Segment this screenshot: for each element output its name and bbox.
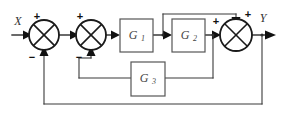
summing-junction-1[interactable] [29,20,59,50]
sum1-sign-plus: + [34,10,40,22]
block-g3-subscript: 3 [151,77,156,86]
block-g2-subscript: 2 [193,34,197,43]
arrowhead-g1-input [111,31,120,40]
block-g1-subscript: 1 [141,34,145,43]
sum2-sign-minus: − [76,51,82,63]
input-label-x: X [13,14,22,28]
sum2-sign-plus: + [77,10,83,22]
block-g2-label: G [181,28,190,42]
sum3-sign-plus-top: + [245,8,251,20]
junction-dot-g1-output-tap [162,34,165,37]
summing-junction-3[interactable] [220,19,252,51]
block-g3-label: G [140,71,149,85]
summing-junction-2[interactable] [76,20,106,50]
sum3-sign-plus-left: + [213,15,219,27]
block-g2[interactable]: G 2 [172,19,205,52]
block-diagram-canvas: G 1 G 2 G 3 X Y + − + − + + [0,0,282,119]
arrowhead-output [265,31,276,40]
block-diagram-root: G 1 G 2 G 3 X Y + − + − + + [0,0,282,119]
block-g1[interactable]: G 1 [120,19,153,52]
block-g1-label: G [129,28,138,42]
block-g3[interactable]: G 3 [131,62,165,96]
output-label-y: Y [260,11,268,25]
sum1-sign-minus: − [29,51,35,63]
